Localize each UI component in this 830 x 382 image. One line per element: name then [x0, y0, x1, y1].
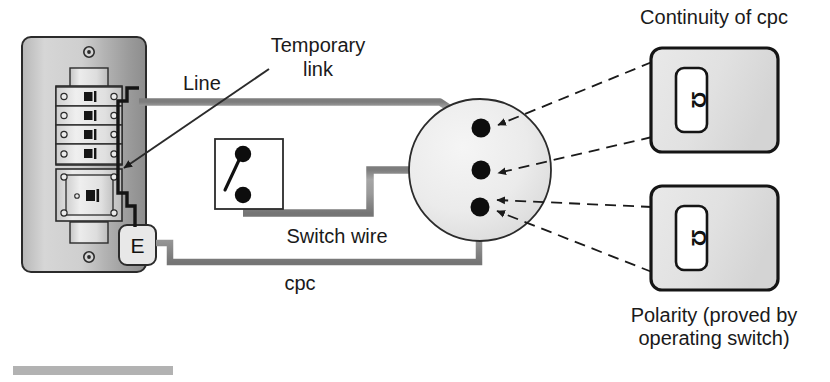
- chassis-tab-bottom: [70, 222, 108, 243]
- panel-screw-bottom-icon: [84, 252, 94, 262]
- earth-terminal-label: E: [130, 234, 144, 257]
- switch-terminal-bottom: [235, 187, 251, 203]
- label-temporary-link-line2: link: [303, 58, 334, 80]
- wall-switch[interactable]: [215, 139, 283, 209]
- earth-terminal[interactable]: E: [119, 225, 156, 265]
- chassis-tab-top: [70, 68, 108, 88]
- breaker-row[interactable]: [56, 106, 122, 125]
- terminal-circle: [409, 99, 551, 241]
- wiring-diagram: E Ω Continuity of cpc: [0, 0, 830, 382]
- meter-top-caption: Continuity of cpc: [640, 6, 788, 28]
- terminal-bottom[interactable]: [471, 198, 490, 217]
- main-switch[interactable]: [56, 169, 122, 221]
- meter-top[interactable]: Ω: [651, 48, 778, 152]
- meter-bottom-caption-line2: operating switch): [638, 327, 789, 349]
- label-switch-wire: Switch wire: [286, 225, 387, 247]
- meter-bottom-caption-line1: Polarity (proved by: [631, 304, 798, 326]
- label-line: Line: [183, 72, 221, 94]
- meter-top-body: [651, 48, 778, 152]
- meter-bottom[interactable]: Ω: [651, 186, 778, 290]
- ohm-icon: Ω: [688, 92, 711, 109]
- ohm-icon: Ω: [688, 230, 711, 247]
- meter-bottom-body: [651, 186, 778, 290]
- label-temporary-link-line1: Temporary: [271, 34, 365, 56]
- breaker-row[interactable]: [56, 144, 122, 164]
- terminal-top[interactable]: [472, 119, 491, 138]
- breaker-row[interactable]: [56, 125, 122, 144]
- switch-terminal-top: [235, 146, 251, 162]
- scan-artifact-bar: [13, 366, 173, 375]
- label-cpc: cpc: [284, 272, 315, 294]
- diagram-canvas: E Ω Continuity of cpc: [0, 0, 830, 382]
- terminal-middle[interactable]: [472, 161, 491, 180]
- consumer-unit: E: [22, 37, 156, 272]
- panel-screw-top-icon: [84, 47, 94, 57]
- breaker-row[interactable]: [56, 87, 122, 106]
